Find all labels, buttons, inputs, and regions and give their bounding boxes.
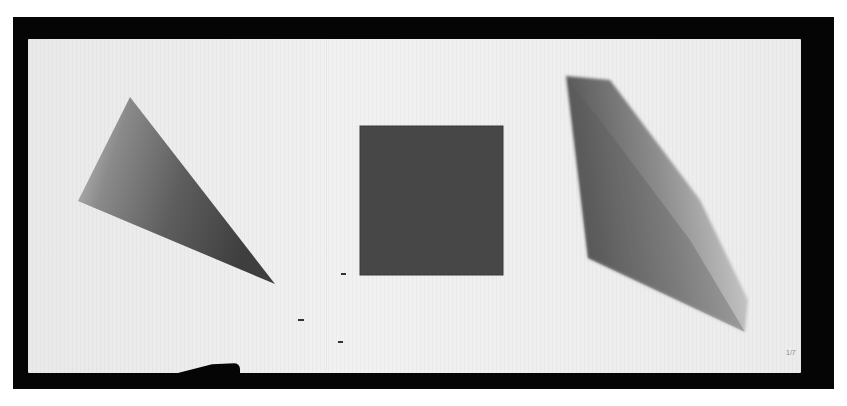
square-shape — [360, 126, 503, 275]
pencil-page-mark: 1/7 — [786, 349, 796, 356]
paper-speck — [298, 319, 304, 321]
painted-shapes — [0, 0, 847, 406]
paper-speck — [341, 273, 346, 275]
paper-speck — [338, 341, 343, 343]
triangle-shape — [78, 97, 275, 284]
